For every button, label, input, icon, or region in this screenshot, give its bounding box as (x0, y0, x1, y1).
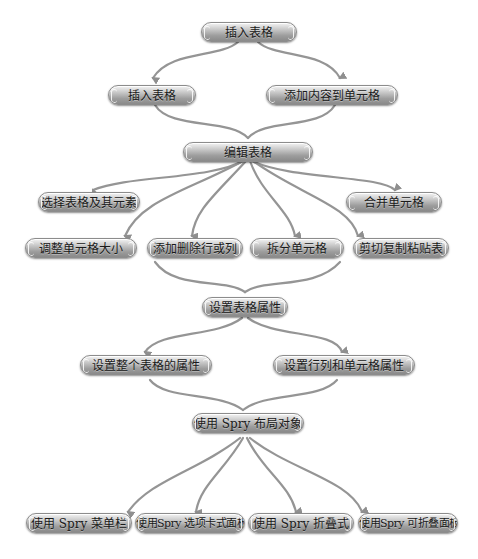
node-resize-cells: 调整单元格大小 (25, 238, 137, 258)
node-spry-menu-bar: 使用 Spry 菜单栏 (26, 513, 132, 533)
node-set-row-col-cell-properties: 设置行列和单元格属性 (273, 355, 415, 375)
node-insert-table-root: 插入表格 (201, 22, 297, 42)
node-spry-tabbed-panels: 使用Spry 选项卡式面板 (135, 513, 245, 533)
node-add-content-to-cell: 添加内容到单元格 (266, 85, 398, 105)
flowchart-edges (0, 0, 478, 559)
node-spry-collapsible-panel: 使用Spry 可折叠面板 (358, 513, 458, 533)
node-set-table-properties: 设置表格属性 (202, 297, 288, 317)
node-insert-table: 插入表格 (108, 85, 196, 105)
node-split-cells: 拆分单元格 (250, 238, 344, 258)
node-edit-table: 编辑表格 (183, 142, 313, 162)
node-cut-copy-paste-table: 剪切复制粘贴表 (353, 238, 449, 258)
node-add-delete-rows-cols: 添加删除行或列 (147, 238, 243, 258)
node-select-table-elements: 选择表格及其元素 (38, 192, 140, 212)
node-set-whole-table-properties: 设置整个表格的属性 (80, 355, 212, 375)
node-spry-accordion: 使用 Spry 折叠式 (248, 513, 354, 533)
node-use-spry-layout-objects: 使用 Spry 布局对象 (192, 413, 304, 433)
node-merge-cells: 合并单元格 (346, 192, 442, 212)
